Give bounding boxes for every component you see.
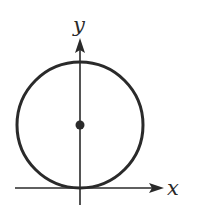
center-point	[76, 121, 85, 130]
x-axis-label: x	[167, 178, 179, 199]
y-axis-label: y	[73, 15, 85, 36]
